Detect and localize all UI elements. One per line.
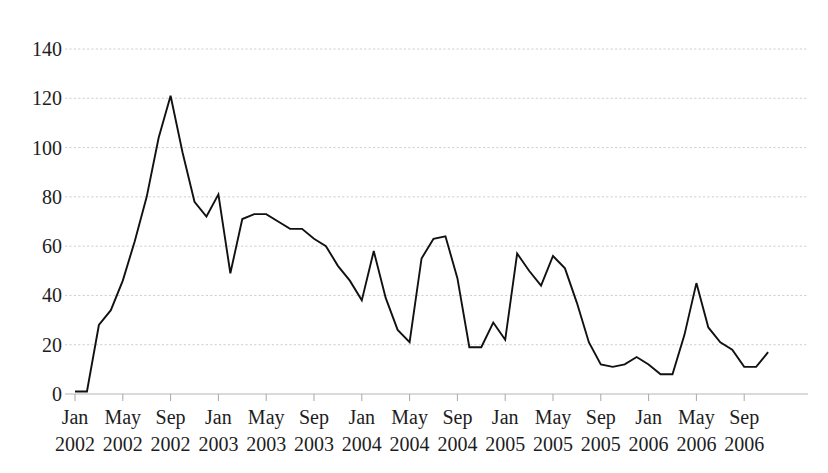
y-tick-label-100: 100 <box>32 137 62 159</box>
y-tick-label-40: 40 <box>42 284 62 306</box>
x-tick-year-1: 2002 <box>103 433 143 455</box>
x-tick-year-0: 2002 <box>55 433 95 455</box>
x-tick-year-8: 2004 <box>437 433 477 455</box>
x-tick-month-6: Jan <box>348 406 375 428</box>
x-tick-year-6: 2004 <box>342 433 382 455</box>
x-tick-year-13: 2006 <box>676 433 716 455</box>
x-tick-month-14: Sep <box>729 406 759 429</box>
data-series-line <box>75 96 768 392</box>
y-tick-label-140: 140 <box>32 38 62 60</box>
gridlines-group <box>65 49 808 394</box>
x-tick-month-7: May <box>391 406 428 429</box>
x-tick-month-11: Sep <box>586 406 616 429</box>
chart-canvas: 020406080100120140 Jan2002May2002Sep2002… <box>0 0 828 473</box>
x-tick-month-2: Sep <box>156 406 186 429</box>
x-tick-month-10: May <box>535 406 572 429</box>
x-tick-month-12: Jan <box>635 406 662 428</box>
x-tick-year-9: 2005 <box>485 433 525 455</box>
x-tick-year-4: 2003 <box>246 433 286 455</box>
x-axis-ticks-group <box>75 394 744 401</box>
x-tick-year-14: 2006 <box>724 433 764 455</box>
x-tick-month-13: May <box>678 406 715 429</box>
x-tick-month-0: Jan <box>62 406 89 428</box>
y-tick-label-120: 120 <box>32 87 62 109</box>
y-tick-label-80: 80 <box>42 186 62 208</box>
x-axis-tick-labels-group: Jan2002May2002Sep2002Jan2003May2003Sep20… <box>55 406 764 455</box>
x-tick-year-5: 2003 <box>294 433 334 455</box>
x-tick-month-4: May <box>248 406 285 429</box>
x-tick-month-3: Jan <box>205 406 232 428</box>
x-tick-month-9: Jan <box>492 406 519 428</box>
x-tick-year-12: 2006 <box>629 433 669 455</box>
x-tick-year-3: 2003 <box>198 433 238 455</box>
x-tick-month-1: May <box>104 406 141 429</box>
y-axis-tick-labels-group: 020406080100120140 <box>32 38 62 405</box>
x-tick-month-5: Sep <box>299 406 329 429</box>
y-tick-label-60: 60 <box>42 235 62 257</box>
x-tick-month-8: Sep <box>442 406 472 429</box>
x-tick-year-7: 2004 <box>390 433 430 455</box>
x-tick-year-2: 2002 <box>151 433 191 455</box>
y-tick-label-0: 0 <box>52 383 62 405</box>
y-tick-label-20: 20 <box>42 334 62 356</box>
x-tick-year-10: 2005 <box>533 433 573 455</box>
x-tick-year-11: 2005 <box>581 433 621 455</box>
line-chart-figure: 020406080100120140 Jan2002May2002Sep2002… <box>0 0 828 473</box>
